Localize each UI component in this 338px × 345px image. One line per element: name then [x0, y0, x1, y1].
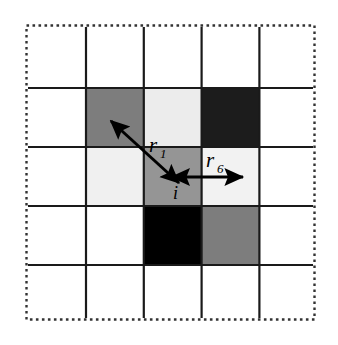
label-r6-subscript: 6 [217, 161, 224, 176]
label-r1-base: r [149, 133, 158, 157]
lattice-diagram-container: r 1 r 6 i [0, 0, 338, 345]
lattice-diagram-svg: r 1 r 6 i [0, 0, 338, 345]
label-r1-subscript: 1 [160, 146, 167, 161]
cell-r2-c1 [86, 147, 144, 206]
label-r6-base: r [206, 148, 215, 172]
cell-r1-c1 [86, 88, 144, 147]
cell-r1-c3 [202, 88, 260, 147]
center-site-label: i [173, 183, 178, 203]
cell-r3-c3 [202, 206, 260, 265]
cell-r3-c2 [144, 206, 202, 265]
